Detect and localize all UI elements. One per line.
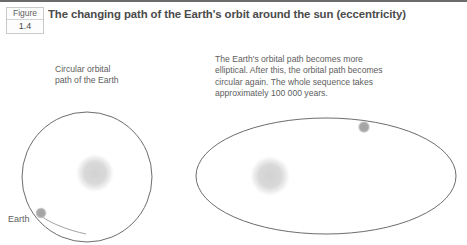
elliptical-orbit-group [196,118,456,234]
elliptical-orbit-path [196,118,456,234]
caption-circular-orbit: Circular orbital path of the Earth [55,64,185,87]
figure-title: The changing path of the Earth's orbit a… [48,6,458,23]
figure-header: Figure 1.4 The changing path of the Eart… [0,4,467,46]
circular-orbit-path [22,112,152,242]
figure-number-badge: Figure 1.4 [6,7,44,34]
caption-elliptical-orbit: The Earth's orbital path becomes more el… [215,54,445,100]
figure-badge-number: 1.4 [7,20,43,33]
earth-label: Earth [8,214,30,224]
earth-marker-circular [35,207,46,218]
earth-leader-line-left [41,216,86,234]
figure-badge-word: Figure [7,8,43,20]
earth-marker-elliptical [358,121,370,133]
circular-orbit-group [22,112,152,242]
figure-panel: Figure 1.4 The changing path of the Eart… [0,0,467,245]
sun-elliptical [249,155,291,197]
top-divider [0,0,467,2]
sun-circular [75,153,115,193]
